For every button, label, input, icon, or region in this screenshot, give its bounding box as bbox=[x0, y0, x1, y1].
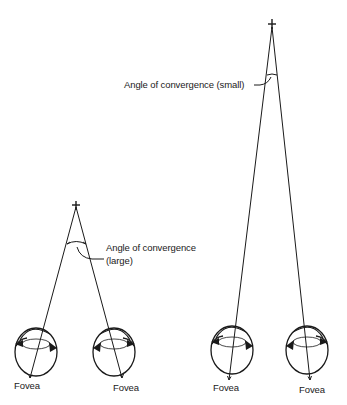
fovea-label: Fovea bbox=[213, 382, 239, 393]
right-eye-sightline bbox=[76, 207, 122, 378]
fovea-label: Fovea bbox=[113, 382, 139, 393]
fovea-label: Fovea bbox=[14, 380, 40, 391]
fovea-label: Fovea bbox=[299, 384, 325, 395]
right-panel bbox=[211, 19, 328, 380]
angle-label-small: Angle of convergence (small) bbox=[124, 79, 244, 90]
angle-leader-line bbox=[254, 77, 271, 85]
left-eye-icon bbox=[15, 328, 57, 376]
angle-label-large-line1: Angle of convergence bbox=[106, 242, 196, 253]
left-eye-sightline bbox=[30, 207, 76, 378]
left-eye-icon bbox=[211, 326, 253, 374]
diagram-drawing bbox=[0, 0, 347, 405]
left-panel bbox=[15, 201, 135, 378]
angle-label-large-line2: (large) bbox=[106, 255, 133, 266]
angle-arc-small bbox=[267, 74, 277, 75]
convergence-diagram: Angle of convergence (large) Fovea Fovea… bbox=[0, 0, 347, 405]
right-eye-icon bbox=[93, 328, 135, 376]
angle-leader-line bbox=[77, 247, 104, 259]
